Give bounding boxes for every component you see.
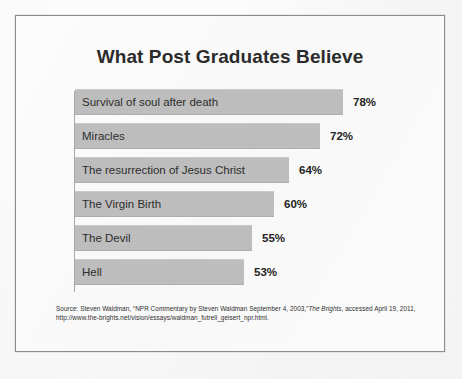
source-publication-name: The Brights (308, 305, 341, 312)
source-citation: Source: Steven Waldman, “NPR Commentary … (56, 304, 416, 322)
bar-label: Hell (82, 259, 102, 285)
source-line1-post: , (342, 305, 344, 312)
bar-label: Survival of soul after death (82, 89, 218, 115)
bar-value: 78% (353, 89, 376, 115)
bar-value: 60% (284, 191, 307, 217)
bar-value: 55% (262, 225, 285, 251)
slide-frame: What Post Graduates Believe Survival of … (15, 15, 445, 352)
bar-label: The resurrection of Jesus Christ (82, 157, 245, 183)
source-line1-pre: Source: Steven Waldman, “NPR Commentary … (56, 305, 308, 312)
bar-value: 72% (330, 123, 353, 149)
page-title: What Post Graduates Believe (16, 46, 444, 68)
bar-label: The Virgin Birth (82, 191, 161, 217)
bar-label: The Devil (82, 225, 131, 251)
bar-value: 53% (254, 259, 277, 285)
bar-label: Miracles (82, 123, 125, 149)
bar-chart: Survival of soul after death 78% Miracle… (74, 89, 424, 294)
bar-value: 64% (299, 157, 322, 183)
